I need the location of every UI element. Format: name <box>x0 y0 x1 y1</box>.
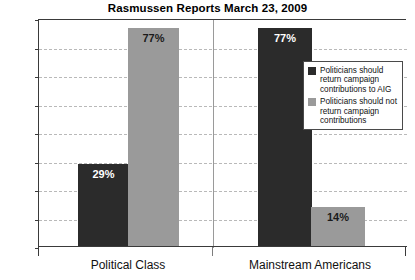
gridline <box>39 134 407 135</box>
y-axis-tick-mark <box>35 191 39 192</box>
chart-title: Rasmussen Reports March 23, 2009 <box>0 2 415 14</box>
bar: 14% <box>311 207 365 247</box>
x-axis-line <box>38 246 407 247</box>
plot-area: 29%77%77%14% <box>38 19 406 247</box>
legend-swatch <box>308 67 316 75</box>
legend-label: Politicians should not return campaign c… <box>320 97 399 125</box>
chart-legend: Politicians should return campaign contr… <box>303 61 403 130</box>
y-axis-tick-mark <box>35 77 39 78</box>
y-axis-tick-mark <box>35 163 39 164</box>
bar: 77% <box>128 28 179 247</box>
bar-value-label: 77% <box>128 32 179 44</box>
bar-value-label: 29% <box>78 168 129 180</box>
legend-swatch <box>308 98 316 106</box>
bar-value-label: 14% <box>311 211 365 223</box>
legend-item: Politicians should not return campaign c… <box>308 97 399 125</box>
y-axis-tick-mark <box>35 20 39 21</box>
x-axis-mid-tick <box>212 247 213 256</box>
y-axis-tick-mark <box>35 106 39 107</box>
y-axis-tick-mark <box>35 134 39 135</box>
legend-item: Politicians should return campaign contr… <box>308 66 399 94</box>
x-axis-left-tick <box>38 247 39 256</box>
group-divider <box>213 20 214 248</box>
gridline <box>39 49 407 50</box>
bar: 29% <box>78 164 129 247</box>
x-axis-category-label: Mainstream Americans <box>220 258 400 272</box>
y-axis-tick-mark <box>35 220 39 221</box>
gridline <box>39 163 407 164</box>
x-axis-right-tick <box>405 247 406 256</box>
y-axis-tick-mark <box>35 49 39 50</box>
bar-chart: Rasmussen Reports March 23, 2009 29%77%7… <box>0 0 415 280</box>
legend-label: Politicians should return campaign contr… <box>320 66 399 94</box>
x-axis-category-label: Political Class <box>38 258 218 272</box>
bar-value-label: 77% <box>258 32 312 44</box>
